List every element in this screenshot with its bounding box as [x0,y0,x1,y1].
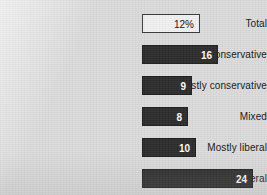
bar-value-label: 16 [201,46,212,65]
bar-chart: Total12%Consistently conservative16Mostl… [0,0,267,195]
bar-rect: 16 [142,45,218,64]
bar-value-label: 8 [176,108,182,127]
bar-rect: 10 [142,138,196,157]
bar-row: Consistently liberal24 [0,169,267,188]
bar-row: Total12% [0,14,267,33]
bar-row: Consistently conservative16 [0,45,267,64]
bar-rect: 8 [142,107,188,126]
bar-track: 12% [142,14,200,33]
bar-row: Mixed8 [0,107,267,126]
bar-track: 8 [142,107,188,126]
bar-rect: 12% [142,14,200,33]
bar-value-label: 24 [236,170,247,189]
bar-rect: 9 [142,76,192,95]
bar-value-label: 9 [180,77,186,96]
bar-value-label: 12% [174,15,194,34]
bar-value-label: 10 [179,139,190,158]
bar-rect: 24 [142,169,253,188]
bar-row: Mostly conservative9 [0,76,267,95]
bar-track: 9 [142,76,192,95]
bar-track: 24 [142,169,253,188]
bar-row: Mostly liberal10 [0,138,267,157]
bar-track: 16 [142,45,218,64]
bar-track: 10 [142,138,196,157]
